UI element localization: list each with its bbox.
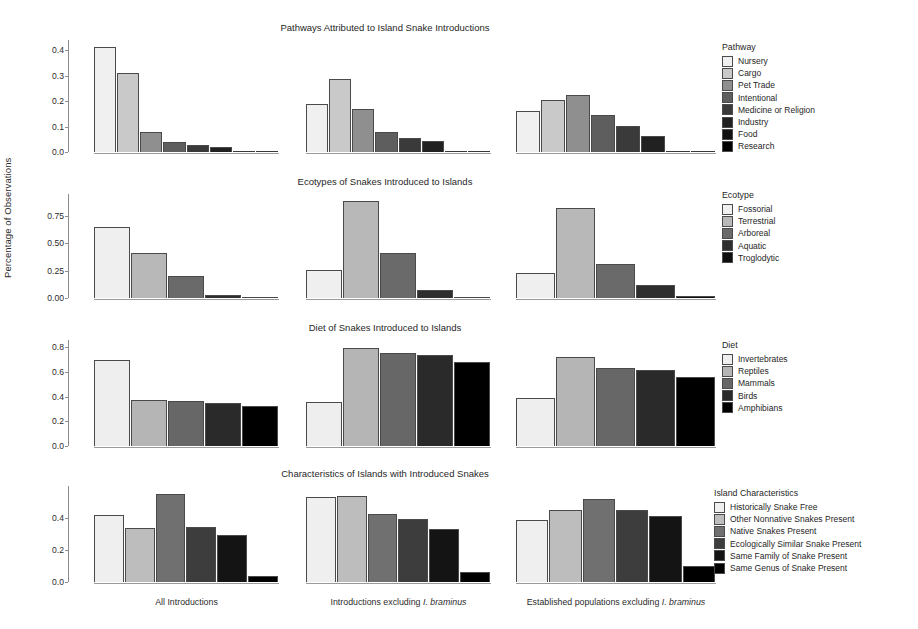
legend-item[interactable]: Other Nonnative Snakes Present — [714, 513, 861, 525]
bar[interactable] — [636, 285, 675, 298]
bar[interactable] — [676, 296, 715, 298]
bar[interactable] — [591, 115, 615, 152]
bar[interactable] — [683, 566, 715, 582]
bar[interactable] — [343, 201, 379, 298]
bar[interactable] — [125, 528, 155, 582]
bar[interactable] — [583, 499, 615, 582]
bar[interactable] — [156, 494, 186, 582]
legend-item[interactable]: Nursery — [722, 55, 815, 67]
bar[interactable] — [380, 353, 416, 446]
legend-item[interactable]: Medicine or Religion — [722, 104, 815, 116]
legend-item[interactable]: Arboreal — [722, 227, 779, 239]
bar[interactable] — [468, 151, 490, 152]
bar[interactable] — [596, 368, 635, 446]
bar[interactable] — [596, 264, 635, 298]
legend-item[interactable]: Industry — [722, 116, 815, 128]
bar[interactable] — [636, 370, 675, 446]
y-axis-tick-mark — [65, 397, 68, 398]
bar[interactable] — [616, 126, 640, 152]
legend-item[interactable]: Food — [722, 128, 815, 140]
legend-swatch-icon — [722, 228, 733, 239]
bar[interactable] — [445, 151, 467, 152]
bar[interactable] — [454, 297, 490, 298]
legend-item[interactable]: Fossorial — [722, 203, 779, 215]
bar[interactable] — [94, 47, 116, 152]
bar[interactable] — [187, 145, 209, 152]
bar[interactable] — [168, 276, 204, 298]
bar[interactable] — [94, 515, 124, 582]
bar[interactable] — [242, 297, 278, 298]
bar[interactable] — [186, 527, 216, 582]
bar[interactable] — [616, 510, 648, 582]
legend-item[interactable]: Native Snakes Present — [714, 525, 861, 537]
bar[interactable] — [117, 73, 139, 152]
bar[interactable] — [398, 519, 428, 582]
bar[interactable] — [399, 138, 421, 153]
bar[interactable] — [205, 403, 241, 446]
bar[interactable] — [691, 151, 715, 152]
bar[interactable] — [676, 377, 715, 446]
bar[interactable] — [417, 355, 453, 446]
legend-item[interactable]: Research — [722, 140, 815, 152]
bar[interactable] — [242, 406, 278, 446]
legend-item[interactable]: Same Family of Snake Present — [714, 550, 861, 562]
bar[interactable] — [422, 141, 444, 152]
legend-item[interactable]: Reptiles — [722, 365, 788, 377]
bar[interactable] — [210, 147, 232, 152]
bar[interactable] — [256, 151, 278, 152]
bar[interactable] — [556, 208, 595, 298]
legend-item[interactable]: Invertebrates — [722, 353, 788, 365]
bar[interactable] — [131, 253, 167, 298]
bar[interactable] — [205, 295, 241, 299]
bar[interactable] — [380, 253, 416, 298]
legend-item[interactable]: Intentional — [722, 92, 815, 104]
bar[interactable] — [516, 111, 540, 152]
legend-item[interactable]: Pet Trade — [722, 79, 815, 91]
bar[interactable] — [516, 398, 555, 446]
bar[interactable] — [649, 516, 681, 582]
bar[interactable] — [375, 132, 397, 152]
legend-item[interactable]: Aquatic — [722, 240, 779, 252]
bar[interactable] — [556, 357, 595, 446]
bar[interactable] — [94, 360, 130, 446]
bar[interactable] — [248, 576, 278, 582]
bar[interactable] — [306, 402, 342, 446]
bar[interactable] — [541, 100, 565, 152]
bar[interactable] — [168, 401, 204, 446]
bar[interactable] — [233, 151, 255, 152]
bar[interactable] — [429, 529, 459, 582]
bar[interactable] — [163, 142, 185, 152]
bar[interactable] — [516, 520, 548, 582]
bar[interactable] — [352, 109, 374, 152]
bar[interactable] — [454, 362, 490, 446]
bar[interactable] — [217, 535, 247, 582]
legend-item[interactable]: Historically Snake Free — [714, 501, 861, 513]
bar[interactable] — [516, 273, 555, 298]
legend-item[interactable]: Birds — [722, 390, 788, 402]
bar[interactable] — [368, 514, 398, 582]
bar[interactable] — [306, 270, 342, 298]
bar[interactable] — [131, 400, 167, 446]
bar[interactable] — [329, 79, 351, 152]
bar[interactable] — [460, 572, 490, 582]
bar[interactable] — [417, 290, 453, 298]
bar[interactable] — [94, 227, 130, 298]
legend-item[interactable]: Terrestrial — [722, 215, 779, 227]
bar[interactable] — [343, 348, 379, 446]
legend-item[interactable]: Cargo — [722, 67, 815, 79]
legend-item[interactable]: Troglodytic — [722, 252, 779, 264]
bar[interactable] — [549, 510, 581, 582]
bar[interactable] — [306, 104, 328, 152]
bar[interactable] — [337, 496, 367, 582]
bar[interactable] — [566, 95, 590, 152]
legend-item[interactable]: Same Genus of Snake Present — [714, 562, 861, 574]
legend-item-label: Pet Trade — [738, 80, 775, 90]
legend-item[interactable]: Ecologically Similar Snake Present — [714, 538, 861, 550]
legend-item[interactable]: Amphibians — [722, 402, 788, 414]
bar[interactable] — [140, 132, 162, 152]
bar[interactable] — [666, 151, 690, 152]
bar[interactable] — [306, 497, 336, 582]
legend-swatch-icon — [714, 538, 725, 549]
legend-item[interactable]: Mammals — [722, 377, 788, 389]
bar[interactable] — [641, 136, 665, 152]
